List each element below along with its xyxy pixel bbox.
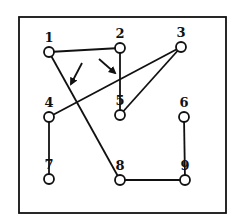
node-label: 3 <box>176 25 185 40</box>
node-label: 1 <box>44 30 53 45</box>
node-label: 9 <box>180 158 189 173</box>
node-circle-icon <box>176 42 186 52</box>
node-circle-icon <box>115 43 125 53</box>
node-1: 1 <box>44 30 54 57</box>
node-label: 8 <box>115 158 124 173</box>
node-circle-icon <box>115 110 125 120</box>
node-circle-icon <box>44 112 54 122</box>
node-5: 5 <box>115 93 125 120</box>
graph-diagram: 123456789 <box>0 0 239 222</box>
node-6: 6 <box>179 95 189 122</box>
node-circle-icon <box>179 112 189 122</box>
node-label: 2 <box>115 26 124 41</box>
node-4: 4 <box>44 95 54 122</box>
arrows-group <box>71 59 115 84</box>
crossing-arrow-left-icon <box>71 63 82 84</box>
edge-3-5 <box>120 47 181 115</box>
node-label: 7 <box>44 157 53 172</box>
crossing-arrow-right-icon <box>99 59 115 73</box>
node-9: 9 <box>180 158 190 185</box>
node-3: 3 <box>176 25 186 52</box>
node-circle-icon <box>180 175 190 185</box>
node-8: 8 <box>115 158 125 185</box>
node-label: 5 <box>115 93 124 108</box>
node-7: 7 <box>44 157 54 184</box>
node-circle-icon <box>44 47 54 57</box>
node-2: 2 <box>115 26 125 53</box>
edge-1-2 <box>49 48 120 52</box>
node-label: 6 <box>179 95 188 110</box>
node-circle-icon <box>115 175 125 185</box>
node-circle-icon <box>44 174 54 184</box>
edge-1-8 <box>49 52 120 180</box>
nodes-group: 123456789 <box>44 25 190 185</box>
node-label: 4 <box>44 95 53 110</box>
